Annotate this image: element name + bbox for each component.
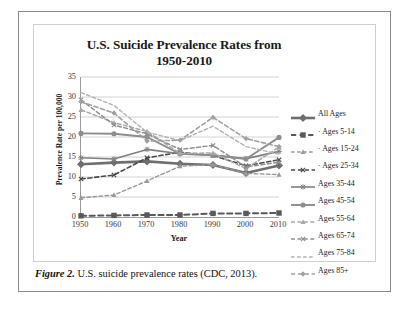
legend-swatch-cross-icon [290,230,316,240]
legend-label: · Ages 15-24 [318,144,359,153]
legend-label: Ages 75-84 [318,248,355,257]
legend-label: Ages 45-54 [318,196,355,205]
data-point-marker [144,147,150,153]
series-line [81,93,279,155]
legend-item[interactable]: Ages 45-54 [290,192,378,209]
legend-label: Ages 65-74 [318,231,355,240]
data-point-marker [111,131,116,136]
x-tick-label: 1950 [63,220,97,229]
chart-title: U.S. Suicide Prevalence Rates from 1950-… [46,37,322,69]
legend-label: Ages 55-64 [318,214,355,223]
data-point-marker [299,114,307,122]
y-tick-label: 30 [52,93,76,101]
legend-label: Ages 35-44 [318,179,355,188]
data-point-marker [79,107,84,112]
chart-legend: All Ages· Ages 5-14· Ages 15-24· Ages 25… [290,105,378,279]
legend-swatch-none-icon [290,248,316,258]
y-tick-label: 35 [52,73,76,81]
x-tick-label: 2000 [228,220,262,229]
legend-swatch-square-icon [290,126,316,136]
data-point-marker [300,184,306,190]
y-tick-label: 5 [52,193,76,201]
y-tick-label: 20 [52,133,76,141]
data-point-marker [78,213,83,218]
legend-swatch-cross-icon [290,161,316,171]
legend-swatch-triangle-icon [290,143,316,153]
series-line [81,165,279,198]
x-tick-label: 1960 [96,220,130,229]
data-point-marker [78,99,83,104]
data-point-marker [277,172,282,177]
data-point-marker [210,211,215,216]
data-point-marker [78,155,84,161]
chart-title-line1: U.S. Suicide Prevalence Rates from [46,37,322,53]
legend-swatch-triangle-icon [290,213,316,223]
legend-item[interactable]: Ages 35-44 [290,175,378,192]
y-tick-label: 10 [52,173,76,181]
legend-label: · Ages 5-14 [318,127,355,136]
y-tick-label: 25 [52,113,76,121]
series-group [78,99,281,149]
x-tick-label: 1990 [195,220,229,229]
data-point-marker [276,210,281,215]
legend-item[interactable]: · Ages 15-24 [290,140,378,157]
data-point-marker [78,131,83,136]
data-point-marker [177,212,182,217]
legend-swatch-circle-icon [290,196,316,206]
data-point-marker [300,202,305,207]
series-group [79,162,282,200]
data-point-marker [145,178,150,183]
data-point-marker [276,135,281,140]
x-axis-ticks: 1950196019701980199020002010 [80,220,278,232]
series-group [81,93,279,155]
series-lines [81,77,279,217]
series-group [78,210,281,218]
data-point-marker [111,156,117,162]
legend-swatch-diamond-icon [290,109,316,119]
plot-area [80,77,279,218]
plot-wrapper: Prevalence Rate per 100,000 051015202530… [34,77,377,263]
chart-container: U.S. Suicide Prevalence Rates from 1950-… [33,24,376,262]
data-point-marker [144,212,149,217]
legend-label: · Ages 25-34 [318,161,359,170]
data-point-marker [77,160,85,168]
legend-item[interactable]: · Ages 5-14 [290,122,378,139]
figure-caption-text: U.S. suicide prevalence rates (CDC, 2013… [75,268,257,279]
y-axis-ticks: 05101520253035 [52,77,76,217]
legend-item[interactable]: Ages 75-84 [290,244,378,261]
data-point-marker [111,213,116,218]
data-point-marker [243,156,248,161]
x-axis-label: Year [80,234,278,243]
y-tick-label: 15 [52,153,76,161]
legend-label: All Ages [318,109,346,118]
legend-item[interactable]: All Ages [290,105,378,122]
figure-caption: Figure 2. U.S. suicide prevalence rates … [35,268,375,279]
legend-item[interactable]: Ages 55-64 [290,209,378,226]
data-point-marker [243,211,248,216]
x-tick-label: 1970 [129,220,163,229]
chart-title-line2: 1950-2010 [46,53,322,69]
data-point-marker [300,132,305,137]
legend-item[interactable]: Ages 65-74 [290,227,378,244]
x-tick-label: 1980 [162,220,196,229]
figure-card: U.S. Suicide Prevalence Rates from 1950-… [18,11,391,292]
legend-item[interactable]: · Ages 25-34 [290,157,378,174]
figure-number: Figure 2. [35,268,75,279]
legend-swatch-asterisk-icon [290,178,316,188]
